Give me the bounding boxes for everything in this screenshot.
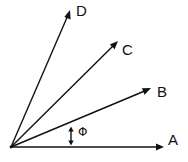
arrowhead-d-icon — [64, 10, 70, 20]
vector-d-label: D — [76, 2, 87, 19]
vector-c-label: C — [122, 41, 133, 58]
vector-b-label: B — [157, 83, 167, 100]
vector-d: D — [11, 2, 87, 147]
vector-a: A — [11, 131, 178, 151]
vector-diagram: A B C D Φ — [0, 0, 188, 162]
arrowhead-b-icon — [142, 88, 151, 95]
arrowhead-a-icon — [156, 144, 164, 151]
phi-angle-label: Φ — [78, 125, 87, 139]
origin-point — [10, 146, 13, 149]
angle-arrow-down-icon — [68, 141, 73, 146]
angle-marker: Φ — [68, 125, 87, 146]
vector-a-label: A — [168, 131, 178, 148]
vector-c-line — [11, 44, 115, 147]
angle-arrow-up-icon — [68, 127, 73, 132]
